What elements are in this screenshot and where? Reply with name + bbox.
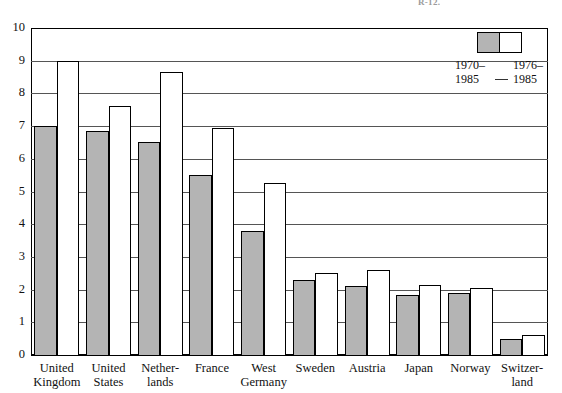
bar — [293, 280, 316, 355]
bar — [522, 335, 545, 355]
x-label-line: lands — [126, 375, 194, 389]
y-tick-label-9: 9 — [0, 54, 25, 66]
bar — [109, 106, 132, 355]
y-tick-label-1: 1 — [0, 315, 25, 327]
y-tick-label-0: 0 — [0, 348, 25, 360]
bar — [470, 288, 493, 355]
bar — [367, 270, 390, 355]
bar — [241, 231, 264, 355]
bar — [160, 72, 183, 355]
bar — [345, 286, 368, 355]
x-label-line: Germany — [230, 375, 298, 389]
bar — [189, 175, 212, 355]
y-tick-label-6: 6 — [0, 152, 25, 164]
legend-label-period-1-line2: 1985 — [455, 72, 485, 86]
bar — [264, 183, 287, 355]
legend-swatch-open — [499, 32, 522, 53]
legend-label-period-1-line1: 1970– — [455, 58, 485, 72]
bar — [419, 285, 442, 355]
top-caption-fragment: R-12. — [418, 0, 440, 5]
legend-label-period-1: 1970– 1985 — [455, 58, 485, 86]
bar — [396, 295, 419, 355]
x-label-line: land — [488, 375, 556, 389]
bar — [212, 128, 235, 355]
y-tick-label-10: 10 — [0, 21, 25, 33]
bar — [34, 126, 57, 355]
x-axis-label-switzerland: Switzer-land — [488, 361, 556, 389]
y-tick-label-5: 5 — [0, 185, 25, 197]
y-tick-label-2: 2 — [0, 283, 25, 295]
y-tick-label-7: 7 — [0, 119, 25, 131]
y-tick-label-4: 4 — [0, 217, 25, 229]
legend-label-period-2-line2: 1985 — [513, 72, 543, 86]
bar — [448, 293, 471, 355]
bar — [138, 142, 161, 355]
y-tick-label-8: 8 — [0, 86, 25, 98]
bar — [57, 61, 80, 355]
bar — [86, 131, 109, 355]
legend-label-period-2-line1: 1976– — [513, 58, 543, 72]
legend-swatch-shaded — [477, 32, 500, 53]
x-label-line: Switzer- — [488, 361, 556, 375]
legend-separator-dash — [495, 79, 508, 80]
legend — [477, 32, 523, 53]
bar — [500, 339, 523, 355]
legend-label-period-2: 1976– 1985 — [513, 58, 543, 86]
figure-root: R-12. 012345678910 UnitedKingdomUnitedSt… — [0, 0, 562, 393]
bar — [315, 273, 338, 355]
y-tick-label-3: 3 — [0, 250, 25, 262]
